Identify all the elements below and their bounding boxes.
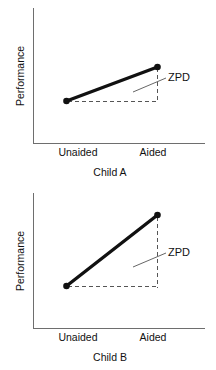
zpd-leader-line-child-a xyxy=(133,78,166,92)
x-tick-label-aided-child-a: Aided xyxy=(140,146,167,158)
x-tick-label-unaided-child-a: Unaided xyxy=(58,146,97,158)
panel-caption-child-b: Child B xyxy=(93,351,127,363)
y-axis-label-child-b: Performance xyxy=(14,231,26,291)
zpd-annotation-label-child-b: ZPD xyxy=(168,246,190,258)
data-point-aided-child-a xyxy=(154,64,161,71)
y-axis-label-child-a: Performance xyxy=(14,46,26,106)
x-tick-label-unaided-child-b: Unaided xyxy=(58,331,97,343)
x-tick-label-aided-child-b: Aided xyxy=(140,331,167,343)
data-point-unaided-child-a xyxy=(63,98,70,105)
performance-trend-line-child-a xyxy=(67,67,158,101)
zpd-figure: ZPD Performance Unaided Aided Child A xyxy=(0,0,216,370)
chart-axes-child-b xyxy=(34,193,206,329)
performance-trend-line-child-b xyxy=(67,215,158,286)
data-point-unaided-child-b xyxy=(63,283,70,290)
zpd-annotation-label-child-a: ZPD xyxy=(168,71,190,83)
chart-panel-child-b: ZPD Performance Unaided Aided Child B xyxy=(0,185,216,370)
data-point-aided-child-b xyxy=(154,212,161,219)
zpd-leader-line-child-b xyxy=(133,253,166,267)
chart-panel-child-a: ZPD Performance Unaided Aided Child A xyxy=(0,0,216,185)
panel-caption-child-a: Child A xyxy=(93,166,126,178)
